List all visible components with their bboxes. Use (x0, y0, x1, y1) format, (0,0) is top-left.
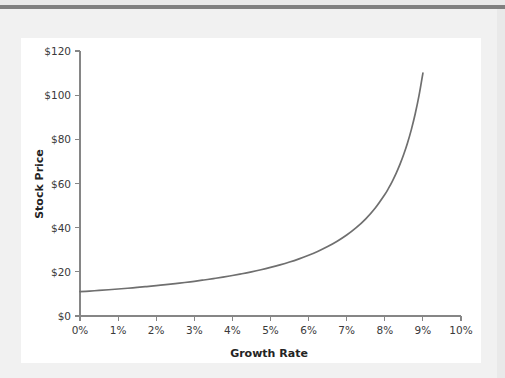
x-tick-label-4: 4% (224, 324, 241, 336)
figure-card: $0 $20 $40 $60 $80 $100 $120 (21, 38, 481, 363)
document-surface: $0 $20 $40 $60 $80 $100 $120 (0, 9, 497, 378)
y-axis-tick-labels: $0 $20 $40 $60 $80 $100 $120 (44, 45, 71, 322)
y-axis-title: Stock Price (33, 149, 46, 219)
stock-price-series-line (80, 73, 423, 292)
x-tick-label-9: 9% (415, 324, 432, 336)
x-tick-label-7: 7% (338, 324, 355, 336)
x-axis-tick-labels: 0% 1% 2% 3% 4% 5% 6% 7% 8% 9% 10% (72, 324, 473, 336)
screenshot-root: $0 $20 $40 $60 $80 $100 $120 (0, 0, 505, 378)
y-tick-label-20: $20 (51, 266, 71, 278)
x-tick-label-0: 0% (72, 324, 89, 336)
x-axis-title: Growth Rate (230, 347, 308, 360)
x-tick-label-10: 10% (449, 324, 472, 336)
y-tick-label-100: $100 (44, 89, 71, 101)
x-tick-label-2: 2% (148, 324, 165, 336)
x-tick-label-6: 6% (300, 324, 317, 336)
y-tick-label-120: $120 (44, 45, 71, 57)
y-tick-label-60: $60 (51, 178, 71, 190)
x-tick-label-3: 3% (186, 324, 203, 336)
y-tick-label-40: $40 (51, 222, 71, 234)
x-tick-label-8: 8% (376, 324, 393, 336)
x-tick-label-1: 1% (110, 324, 127, 336)
y-axis-ticks (75, 51, 80, 316)
x-axis-ticks (80, 316, 461, 321)
chart-plot-area: $0 $20 $40 $60 $80 $100 $120 (21, 38, 481, 363)
y-tick-label-0: $0 (58, 310, 71, 322)
stock-price-growth-rate-line-chart: $0 $20 $40 $60 $80 $100 $120 (21, 38, 481, 363)
x-tick-label-5: 5% (262, 324, 279, 336)
y-tick-label-80: $80 (51, 133, 71, 145)
